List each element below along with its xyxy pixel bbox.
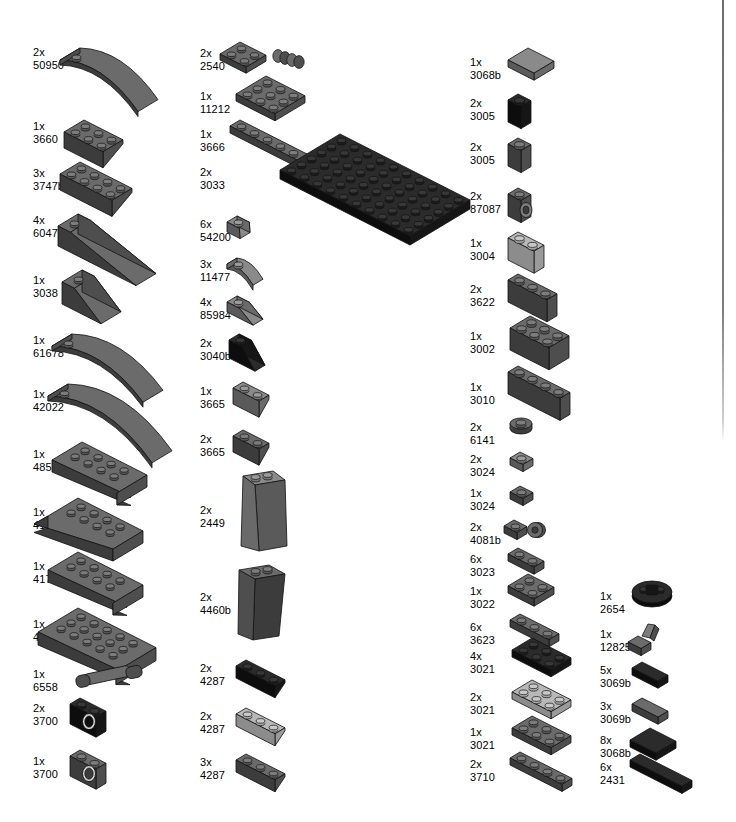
- part-label: 1x12825: [600, 628, 631, 654]
- part-number: 85984: [200, 309, 231, 322]
- part-number: 4287: [200, 723, 225, 736]
- part-quantity: 6x: [200, 218, 231, 231]
- part-quantity: 4x: [200, 296, 231, 309]
- part-image-3710: [506, 750, 576, 776]
- part-image-6558: [72, 662, 152, 688]
- part-image-11212: [236, 72, 320, 120]
- part-number: 3068b: [470, 69, 501, 82]
- part-quantity: 2x: [200, 662, 225, 675]
- part-image-11477: [233, 250, 277, 282]
- part-label: 2x3021: [470, 691, 495, 717]
- part-number: 3024: [470, 466, 495, 479]
- part-quantity: 2x: [470, 283, 495, 296]
- part-quantity: 4x: [470, 650, 495, 663]
- part-quantity: 2x: [33, 46, 64, 59]
- part-image-3660: [72, 108, 188, 156]
- part-image-2449: [233, 464, 281, 554]
- part-label: 1x3010: [470, 381, 495, 407]
- part-image-3622: [506, 270, 574, 312]
- part-image-2431: [628, 752, 700, 778]
- part-number: 4460b: [200, 604, 231, 617]
- part-label: 4x85984: [200, 296, 231, 322]
- part-number: 3666: [200, 141, 225, 154]
- part-quantity: 1x: [470, 726, 495, 739]
- part-number: 4287: [200, 769, 225, 782]
- part-quantity: 2x: [33, 702, 58, 715]
- part-quantity: 2x: [470, 691, 495, 704]
- part-number: 3021: [470, 704, 495, 717]
- part-number: 6558: [33, 681, 58, 694]
- part-quantity: 2x: [470, 97, 495, 110]
- part-image-3700: [74, 692, 136, 736]
- part-label: 2x50950: [33, 46, 64, 72]
- part-image-4287: [236, 700, 306, 732]
- part-quantity: 6x: [470, 621, 495, 634]
- part-label: 1x3666: [200, 128, 225, 154]
- part-label: 3x11477: [200, 258, 230, 284]
- part-label: 1x3660: [33, 120, 58, 146]
- part-image-3665: [233, 420, 289, 460]
- part-quantity: 1x: [470, 56, 501, 69]
- part-quantity: 3x: [33, 167, 64, 180]
- part-image-3004: [506, 226, 558, 266]
- part-label: 8x3068b: [600, 734, 631, 760]
- part-image-50950: [72, 34, 188, 92]
- part-number: 3033: [200, 179, 225, 192]
- part-image-3010: [506, 362, 590, 408]
- part-image-3700: [74, 744, 136, 788]
- part-image-60477: [70, 204, 192, 256]
- part-quantity: 1x: [200, 128, 225, 141]
- part-image-4287: [236, 652, 306, 684]
- part-quantity: 1x: [470, 487, 495, 500]
- part-quantity: 1x: [33, 755, 58, 768]
- part-quantity: 1x: [470, 585, 495, 598]
- part-quantity: 1x: [200, 385, 225, 398]
- part-label: 1x3068b: [470, 56, 501, 82]
- part-number: 2449: [200, 517, 225, 530]
- part-number: 3040b: [200, 350, 231, 363]
- part-quantity: 2x: [200, 710, 225, 723]
- part-number: 3623: [470, 634, 495, 647]
- part-image-4855: [56, 428, 208, 490]
- part-number: 4287: [200, 675, 225, 688]
- part-number: 3069b: [600, 677, 631, 690]
- part-quantity: 2x: [470, 758, 495, 771]
- part-number: 3021: [470, 663, 495, 676]
- part-number: 3622: [470, 296, 495, 309]
- part-label: 2x3005: [470, 97, 495, 123]
- part-number: 3700: [33, 768, 58, 781]
- part-label: 2x4287: [200, 662, 225, 688]
- part-label: 2x87087: [470, 190, 501, 216]
- part-image-85984: [233, 288, 279, 318]
- part-label: 1x3665: [200, 385, 225, 411]
- part-number: 12825: [600, 641, 631, 654]
- part-label: 3x3069b: [600, 700, 631, 726]
- part-label: 2x4460b: [200, 591, 231, 617]
- part-image-3022: [506, 572, 560, 604]
- part-label: 1x11212: [200, 90, 230, 116]
- part-image-3623: [506, 612, 566, 636]
- part-quantity: 2x: [470, 141, 495, 154]
- part-label: 3x4287: [200, 756, 225, 782]
- part-number: 3747b: [33, 180, 64, 193]
- part-number: 4081b: [470, 534, 501, 547]
- part-image-3068b: [628, 724, 684, 754]
- part-number: 2540: [200, 60, 225, 73]
- part-label: 2x3005: [470, 141, 495, 167]
- part-image-3005: [506, 132, 542, 170]
- part-quantity: 3x: [200, 756, 225, 769]
- part-number: 3038: [33, 287, 58, 300]
- part-image-4460b: [233, 558, 281, 644]
- part-label: 2x4287: [200, 710, 225, 736]
- part-quantity: 1x: [33, 120, 58, 133]
- part-label: 2x3024: [470, 453, 495, 479]
- part-image-54200: [233, 208, 273, 238]
- part-image-87087: [506, 180, 544, 220]
- part-quantity: 1x: [600, 628, 631, 641]
- part-quantity: 3x: [600, 700, 631, 713]
- part-image-3005: [506, 88, 542, 126]
- part-quantity: 2x: [200, 337, 231, 350]
- part-label: 1x3700: [33, 755, 58, 781]
- part-quantity: 1x: [33, 668, 58, 681]
- part-quantity: 1x: [470, 330, 495, 343]
